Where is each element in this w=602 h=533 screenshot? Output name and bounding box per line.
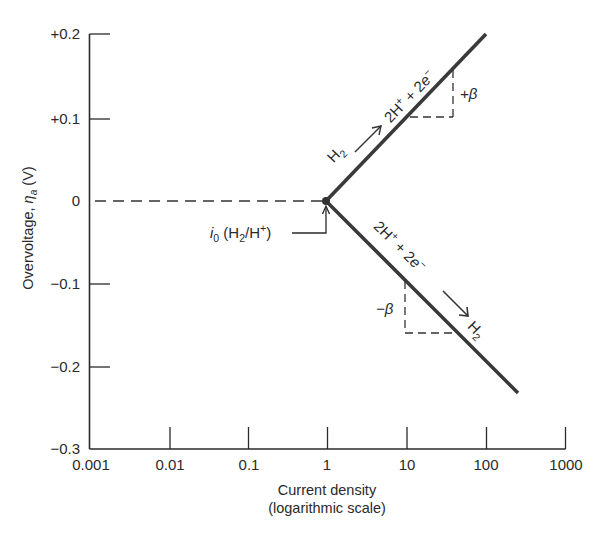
x-tick-label: 10	[399, 457, 416, 472]
i0-leader-arrow	[292, 206, 330, 233]
y-axis-title: Overvoltage, ηa (V)	[19, 166, 37, 289]
x-tick-label: 1000	[549, 457, 582, 472]
couple-text-mid: /H	[245, 224, 260, 241]
x-tick-label: 0.01	[155, 457, 184, 472]
cathodic-tafel-line	[326, 201, 518, 393]
x-axis-title: Current density (logarithmic scale)	[268, 481, 386, 517]
x-axis-title-line1: Current density	[268, 481, 386, 499]
y-tick-label: −0.3	[10, 441, 80, 456]
x-axis-title-line2: (logarithmic scale)	[268, 499, 386, 517]
eta-symbol: η	[20, 195, 36, 203]
anodic-tafel-line	[326, 34, 486, 201]
couple-close: )	[266, 224, 271, 241]
x-tick-label: 0.1	[239, 457, 260, 472]
x-tick-label: 1	[323, 457, 331, 472]
tafel-diagram: +0.2 +0.1 0 −0.1 −0.2 −0.3 0.001 0.01 0.…	[0, 0, 602, 533]
exchange-current-label: i0 (H2/H+)	[210, 225, 271, 240]
x-tick-label: 100	[473, 457, 498, 472]
x-tick-label: 0.001	[72, 457, 110, 472]
y-tick-label: +0.1	[10, 111, 80, 126]
y-axis-title-text: Overvoltage,	[20, 203, 36, 289]
exchange-current-point	[322, 197, 330, 205]
x-axis-ticks	[170, 427, 566, 449]
y-tick-label: −0.2	[10, 359, 80, 374]
y-axis-unit: (V)	[20, 166, 36, 189]
anodic-slope-label: +β	[460, 86, 477, 101]
couple-text: (H	[219, 224, 239, 241]
eta-subscript: a	[28, 190, 39, 196]
y-tick-label: +0.2	[10, 26, 80, 41]
cathodic-reaction-arrow	[443, 291, 468, 316]
plot-area	[0, 0, 602, 533]
cathodic-slope-label: −β	[376, 301, 393, 316]
